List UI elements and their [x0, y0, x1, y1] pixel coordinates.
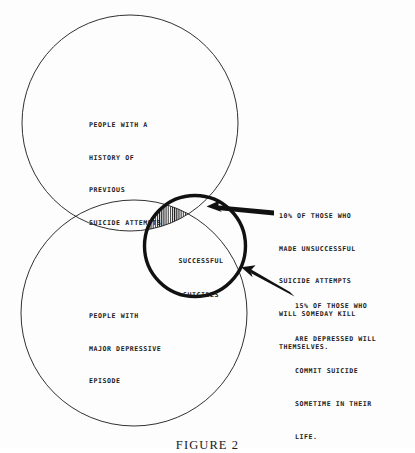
label-line: SUICIDE ATTEMPTS — [89, 218, 161, 229]
annotation-line: COMMIT SUICIDE — [295, 366, 376, 377]
label-line: EPISODE — [89, 376, 161, 387]
annotation-line: 15% OF THOSE WHO — [295, 301, 376, 312]
arrow-to-hatched-region — [207, 201, 275, 216]
annotation-line: MADE UNSUCCESSFUL — [279, 244, 356, 255]
label-line: PEOPLE WITH A — [89, 120, 161, 131]
annotation-15-percent: 15% OF THOSE WHO ARE DEPRESSED WILL COMM… — [295, 279, 376, 453]
label-line: SUICIDES — [162, 290, 240, 301]
label-major-depressive-episode: PEOPLE WITH MAJOR DEPRESSIVE EPISODE — [89, 289, 161, 409]
label-line: PREVIOUS — [89, 185, 161, 196]
label-line: MAJOR DEPRESSIVE — [89, 344, 161, 355]
annotation-line: ARE DEPRESSED WILL — [295, 334, 376, 345]
annotation-line: 10% OF THOSE WHO — [279, 211, 356, 222]
label-line: HISTORY OF — [89, 153, 161, 164]
annotation-line: SOMETIME IN THEIR — [295, 399, 376, 410]
label-successful-suicides: SUCCESSFUL SUICIDES — [162, 233, 240, 324]
label-line: SUCCESSFUL — [162, 256, 240, 267]
label-previous-suicide-attempts: PEOPLE WITH A HISTORY OF PREVIOUS SUICID… — [89, 98, 161, 251]
figure-caption: FIGURE 2 — [0, 438, 415, 453]
label-line: PEOPLE WITH — [89, 311, 161, 322]
